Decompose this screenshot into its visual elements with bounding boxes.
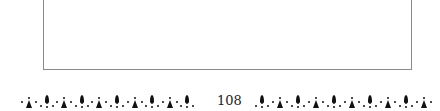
ornament-drop-icon — [38, 94, 56, 110]
ornament-drop-icon — [108, 94, 126, 110]
ornament-drop-icon — [289, 94, 307, 110]
ornament-star-icon — [307, 94, 325, 110]
ornament-star-icon — [20, 94, 38, 110]
page-footer: 108 — [0, 92, 440, 110]
ornament-star-icon — [90, 94, 108, 110]
ornament-star-icon — [126, 94, 144, 110]
ornament-border-right — [253, 92, 440, 110]
ornament-drop-icon — [397, 94, 415, 110]
ornament-drop-icon — [253, 94, 271, 110]
ornament-star-icon — [271, 94, 289, 110]
ornament-drop-icon — [325, 94, 343, 110]
ornament-drop-icon — [143, 94, 161, 110]
ornament-drop-icon — [361, 94, 379, 110]
ornament-star-icon — [55, 94, 73, 110]
ornament-star-icon — [343, 94, 361, 110]
content-frame — [43, 0, 412, 70]
ornament-border-left — [20, 92, 196, 110]
ornament-drop-icon — [178, 94, 196, 110]
page-number: 108 — [217, 93, 242, 108]
ornament-drop-icon — [73, 94, 91, 110]
ornament-star-icon — [415, 94, 433, 110]
ornament-star-icon — [161, 94, 179, 110]
ornament-star-icon — [379, 94, 397, 110]
